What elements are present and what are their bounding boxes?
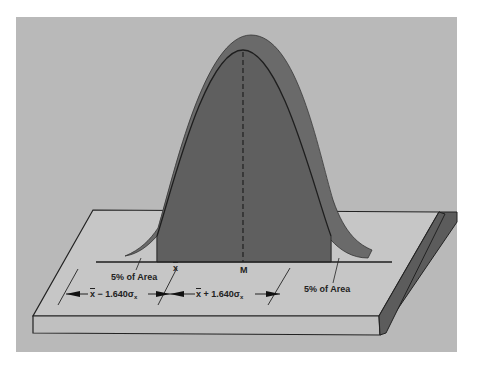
right-tail-area-label: 5% of Area <box>304 285 350 294</box>
normal-distribution-illustration <box>0 0 477 367</box>
lower-bound-label: x − 1.640σx <box>90 290 137 300</box>
left-tail-area-label: 5% of Area <box>111 273 157 282</box>
population-mean-label: M <box>240 266 248 275</box>
upper-bound-subscript: x <box>240 294 243 300</box>
lower-bound-subscript: x <box>134 294 137 300</box>
slab-front-face <box>33 316 380 335</box>
upper-bound-expression: + 1.640σ <box>201 289 240 299</box>
diagram-stage: 5% of Area 5% of Area x M x − 1.640σx x … <box>0 0 477 367</box>
lower-bound-expression: − 1.640σ <box>95 289 134 299</box>
upper-bound-label: x + 1.640σx <box>196 290 243 300</box>
sample-mean-label: x <box>173 264 178 273</box>
